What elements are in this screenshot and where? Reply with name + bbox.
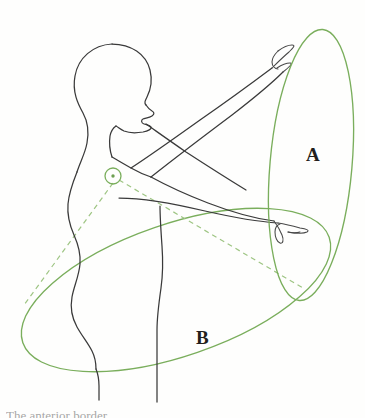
caption-cropped-text: The anterior border (6, 408, 206, 418)
torso-back-outline (68, 172, 96, 369)
face-profile (116, 105, 154, 133)
figure-root: A B The anterior border (0, 0, 365, 418)
front-torso-abdomen (157, 206, 163, 402)
lower-hand-thumb (274, 221, 283, 243)
neck-front (110, 126, 116, 157)
human-figure-outline (68, 44, 308, 402)
lower-arm-bottom-edge (151, 177, 274, 221)
lower-arm-top-edge (119, 198, 278, 223)
raised-arm-upper-edge (146, 124, 246, 190)
head-profile (74, 44, 112, 172)
plane-label-b: B (196, 328, 209, 347)
joint-center-dot (111, 174, 114, 177)
plane-label-a: A (306, 145, 320, 164)
upper-hand-knuckle (272, 51, 278, 69)
lower-hand-fingers (278, 223, 308, 233)
raised-arm-lower-edge (131, 68, 272, 168)
figure-canvas (0, 0, 365, 418)
back-lower-to-leg (96, 369, 99, 400)
raised-arm-top-edge (151, 72, 283, 177)
shoulder-joint-marker (105, 168, 121, 184)
lower-hand-web (288, 232, 300, 233)
motion-plane-b-ellipse (1, 175, 350, 405)
cranium-top (112, 44, 151, 105)
radius-lines-group (24, 180, 303, 305)
